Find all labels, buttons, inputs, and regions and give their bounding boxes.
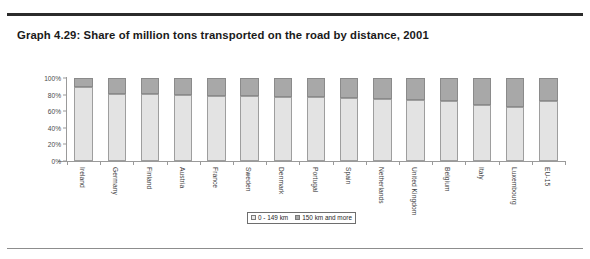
legend-item-low: 0 - 149 km [251,214,288,221]
bar-segment-low [108,94,126,161]
x-axis-tick-mark [200,161,201,165]
bar-segment-low [74,87,92,161]
x-axis-label: Austria [179,167,186,188]
bar-austria [174,78,192,161]
bar-italy [473,78,491,161]
bar-spain [340,78,358,161]
x-axis-label: Italy [478,167,485,180]
x-axis-tick-mark [167,161,168,165]
bar-segment-low [406,100,424,161]
x-axis-tick-mark [499,161,500,165]
y-axis-tick-label: 20% [17,141,61,148]
y-axis-tick-label: 40% [17,124,61,131]
bar-segment-high [406,78,424,100]
x-axis-label: Germany [112,167,119,195]
x-axis-tick-mark [100,161,101,165]
bar-segment-high [340,78,358,98]
bar-segment-high [108,78,126,94]
y-axis-tick-mark [63,144,67,145]
bar-segment-low [473,105,491,161]
x-axis-label: United Kingdom [411,167,418,215]
bar-segment-high [473,78,491,105]
bar-ireland [74,78,92,161]
y-axis-tick-label: 80% [17,91,61,98]
y-axis-tick-label: 60% [17,108,61,115]
x-axis-label: France [212,167,219,188]
x-axis-label: Portugal [312,167,319,192]
x-axis-label: Sweden [245,167,252,191]
bar-netherlands [373,78,391,161]
bar-denmark [274,78,292,161]
bar-segment-high [307,78,325,97]
bar-segment-high [174,78,192,95]
bar-luxembourg [506,78,524,161]
bar-segment-low [240,96,258,161]
page-root: Graph 4.29: Share of million tons transp… [0,0,590,259]
bar-segment-low [207,96,225,161]
bar-finland [141,78,159,161]
x-axis-label: Ireland [79,167,86,188]
bar-segment-low [141,94,159,161]
x-axis-tick-mark [432,161,433,165]
bar-segment-high [274,78,292,97]
bar-segment-low [539,101,557,161]
legend-label-high: 150 km and more [302,214,352,221]
x-axis-tick-mark [366,161,367,165]
bar-segment-low [307,97,325,161]
legend-item-high: 150 km and more [295,214,352,221]
x-axis-tick-mark [565,161,566,165]
bar-segment-high [207,78,225,96]
bar-segment-high [240,78,258,96]
page-title: Graph 4.29: Share of million tons transp… [17,29,429,41]
chart-legend: 0 - 149 km 150 km and more [247,212,356,224]
bar-france [207,78,225,161]
x-axis-tick-mark [299,161,300,165]
x-axis-label: Netherlands [378,167,385,204]
y-axis-tick-label: 0% [17,158,61,165]
bar-segment-low [373,99,391,161]
bar-belgium [440,78,458,161]
plot-area [67,78,565,161]
bar-united-kingdom [406,78,424,161]
bar-segment-high [373,78,391,99]
bar-eu-15 [539,78,557,161]
x-axis-label: Finland [146,167,153,189]
bar-segment-low [506,107,524,161]
y-axis-tick-mark [63,111,67,112]
x-axis-label: Belgium [444,167,451,192]
bar-segment-low [274,97,292,161]
bar-portugal [307,78,325,161]
x-axis-label: EU-15 [544,167,551,186]
y-axis-tick-mark [63,78,67,79]
bar-segment-high [141,78,159,94]
x-axis-tick-mark [133,161,134,165]
bar-segment-low [340,98,358,161]
bar-segment-high [539,78,557,101]
bar-segment-low [440,101,458,161]
bottom-rule [7,248,583,249]
x-axis-tick-mark [67,161,68,165]
x-axis-tick-mark [465,161,466,165]
bar-segment-low [174,95,192,161]
x-axis-label: Denmark [278,167,285,194]
bar-segment-high [506,78,524,107]
bar-germany [108,78,126,161]
legend-swatch-high-icon [295,215,300,220]
top-rule [7,13,583,16]
bar-sweden [240,78,258,161]
x-axis-tick-mark [399,161,400,165]
y-axis-tick-mark [63,127,67,128]
legend-label-low: 0 - 149 km [258,214,288,221]
y-axis-tick-mark [63,94,67,95]
x-axis-tick-mark [532,161,533,165]
x-axis-tick-mark [233,161,234,165]
x-axis-label: Spain [345,167,352,184]
x-axis-tick-mark [266,161,267,165]
bar-segment-high [74,78,92,87]
y-axis-tick-label: 100% [17,75,61,82]
legend-swatch-low-icon [251,215,256,220]
bar-segment-high [440,78,458,101]
x-axis-label: Luxembourg [511,167,518,205]
x-axis-tick-mark [333,161,334,165]
